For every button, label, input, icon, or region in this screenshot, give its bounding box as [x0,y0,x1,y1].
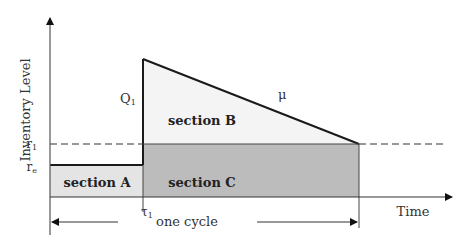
one-cycle-label: one cycle [156,214,218,229]
section-c-label: section C [168,175,235,190]
x-axis-label: Time [397,204,430,219]
svg-text:τ1: τ1 [141,205,153,220]
section-a-label: section A [63,175,131,190]
inventory-diagram: Inventory Level Time r1 re Q1 μ τ1 secti… [0,0,473,243]
section-b-label: section B [168,113,236,128]
svg-text:re: re [27,160,38,175]
svg-text:Q1: Q1 [120,91,136,107]
svg-text:r1: r1 [26,137,37,152]
q1-label: Q [120,91,131,106]
mu-label: μ [278,87,286,102]
